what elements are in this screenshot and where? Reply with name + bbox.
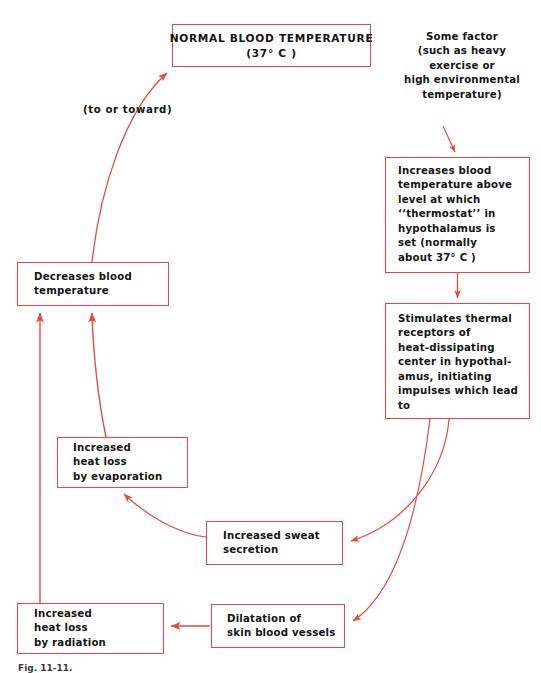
node-line: Increases blood [398,164,529,178]
node-line: heat loss [73,455,187,469]
node-line: center in hypothal- [398,355,529,369]
arrow-some-factor-to-increases [443,126,455,152]
node-line: level at which [398,193,529,207]
edge-label-to-or-toward: (to or toward) [83,103,172,117]
node-line: set (normally [398,236,529,250]
node-line: by radiation [34,636,163,650]
arrow-decreases-to-normal [92,73,167,262]
diagram-canvas: NORMAL BLOOD TEMPERATURE (37° C ) Some f… [0,0,541,673]
node-line: temperature above [398,178,529,192]
node-line: Increased sweat [223,529,342,543]
node-line: temperature [34,284,168,298]
node-line: Some factor [382,30,541,44]
node-dilatation-skin-blood-vessels: Dilatation of skin blood vessels [211,604,345,648]
node-line: Increased [34,607,163,621]
node-line: by evaporation [73,470,187,484]
node-line: Increased [73,441,187,455]
node-normal-blood-temperature: NORMAL BLOOD TEMPERATURE (37° C ) [172,24,371,67]
node-stimulates-thermal-receptors: Stimulates thermal receptors of heat-dis… [385,303,530,419]
node-line: skin blood vessels [227,626,344,640]
node-line: Dilatation of [227,612,344,626]
node-line: (such as heavy [382,44,541,58]
node-line: Stimulates thermal [398,312,529,326]
node-increased-heat-loss-radiation: Increased heat loss by radiation [17,603,164,654]
arrow-stimulates-to-sweat [351,419,449,541]
node-some-factor: Some factor (such as heavy exercise or h… [382,30,541,102]
node-line: heat loss [34,621,163,635]
node-line: NORMAL BLOOD TEMPERATURE [170,31,374,46]
node-line: exercise or [382,59,541,73]
node-line: (37° C ) [246,46,296,61]
node-decreases-blood-temperature: Decreases blood temperature [17,262,169,306]
node-line: ‘‘thermostat’’ in [398,207,529,221]
arrow-sweat-to-evaporation [124,494,206,537]
node-line: hypothalamus is [398,222,529,236]
node-increased-heat-loss-evaporation: Increased heat loss by evaporation [57,437,188,488]
node-line: amus, initiating [398,370,529,384]
node-line: Decreases blood [34,270,168,284]
node-increases-blood-temperature: Increases blood temperature above level … [385,157,530,273]
node-line: temperature) [382,88,541,102]
node-line: high environmental [382,73,541,87]
arrow-stimulates-to-dilatation [353,419,430,621]
arrow-evaporation-to-decreases [92,313,106,437]
node-line: to [398,399,529,413]
node-line: impulses which lead [398,384,529,398]
node-line: heat-dissipating [398,341,529,355]
node-increased-sweat-secretion: Increased sweat secretion [206,521,343,565]
figure-caption: Fig. 11-11. [18,663,72,673]
node-line: about 37° C ) [398,251,529,265]
node-line: secretion [223,543,342,557]
edge-label-text: (to or toward) [83,103,172,117]
node-line: receptors of [398,326,529,340]
